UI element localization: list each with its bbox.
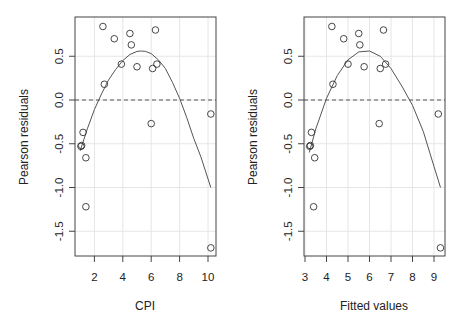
- data-point: [340, 35, 347, 42]
- quadratic-fit-curve: [309, 51, 440, 188]
- grid: [75, 17, 216, 256]
- quadratic-fit-curve: [80, 51, 211, 188]
- y-tick-label: -1.5: [282, 221, 294, 241]
- y-tick-label: 0.5: [282, 48, 294, 64]
- x-tick-label: 6: [148, 271, 154, 283]
- data-point: [127, 30, 134, 37]
- y-tick-label: -1.5: [53, 221, 65, 241]
- y-tick-label: 0.0: [53, 92, 65, 108]
- y-axis-title: Pearson residuals: [246, 89, 260, 185]
- plot-frame: [304, 17, 445, 256]
- y-tick-label: -1.0: [282, 178, 294, 198]
- data-point: [208, 245, 215, 252]
- data-point: [100, 23, 107, 30]
- y-tick-label: 0.0: [282, 92, 294, 108]
- x-axis: 3456789Fitted values: [302, 256, 437, 313]
- data-point: [134, 63, 141, 70]
- data-point: [111, 35, 118, 42]
- data-point: [435, 111, 442, 118]
- y-axis: 0.50.0-0.5-1.0-1.5Pearson residuals: [246, 48, 304, 241]
- y-tick-label: -0.5: [53, 134, 65, 154]
- data-point: [149, 65, 156, 72]
- data-points: [306, 23, 443, 251]
- data-point: [355, 30, 362, 37]
- data-point: [83, 203, 90, 210]
- y-tick-label: -0.5: [282, 134, 294, 154]
- plot-frame: [75, 17, 216, 256]
- chart-canvas: 246810CPI0.50.0-0.5-1.0-1.5Pearson resid…: [0, 0, 465, 329]
- grid: [304, 17, 445, 256]
- data-point: [311, 154, 318, 161]
- x-axis-title: Fitted values: [340, 299, 408, 313]
- data-point: [376, 120, 383, 127]
- x-tick-label: 6: [366, 271, 372, 283]
- x-tick-label: 9: [431, 271, 437, 283]
- data-point: [154, 61, 161, 68]
- x-tick-label: 4: [323, 271, 330, 283]
- data-point: [329, 23, 336, 30]
- panel-fitted-values: 3456789Fitted values0.50.0-0.5-1.0-1.5Pe…: [246, 17, 445, 313]
- y-tick-label: -1.0: [53, 178, 65, 198]
- data-point: [208, 111, 215, 118]
- x-tick-label: 3: [302, 271, 308, 283]
- data-point: [80, 129, 87, 136]
- x-tick-label: 2: [91, 271, 97, 283]
- x-tick-label: 5: [345, 271, 351, 283]
- panel-cpi: 246810CPI0.50.0-0.5-1.0-1.5Pearson resid…: [17, 17, 216, 313]
- x-axis-title: CPI: [135, 299, 155, 313]
- data-point: [357, 42, 364, 49]
- y-axis: 0.50.0-0.5-1.0-1.5Pearson residuals: [17, 48, 75, 241]
- x-tick-label: 8: [176, 271, 182, 283]
- x-axis: 246810CPI: [91, 256, 214, 313]
- x-tick-label: 10: [202, 271, 215, 283]
- data-point: [152, 27, 159, 34]
- data-point: [128, 42, 135, 49]
- data-point: [361, 63, 368, 70]
- data-point: [310, 203, 317, 210]
- residual-plots-figure: 246810CPI0.50.0-0.5-1.0-1.5Pearson resid…: [0, 0, 465, 329]
- data-point: [380, 27, 387, 34]
- y-tick-label: 0.5: [53, 48, 65, 64]
- x-tick-label: 7: [388, 271, 394, 283]
- data-point: [308, 129, 315, 136]
- y-axis-title: Pearson residuals: [17, 89, 31, 185]
- x-tick-label: 4: [120, 271, 127, 283]
- data-point: [83, 154, 90, 161]
- x-tick-label: 8: [409, 271, 415, 283]
- data-point: [437, 245, 444, 252]
